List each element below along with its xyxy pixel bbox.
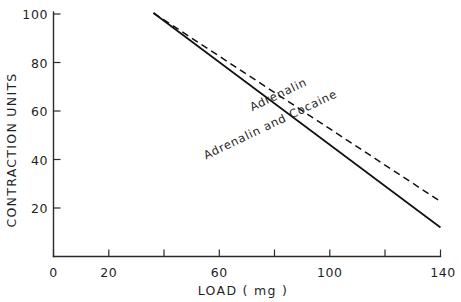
y-tick-label-100: 100 [22, 7, 48, 22]
y-axis-title: CONTRACTION UNITS [4, 72, 19, 227]
x-tick-label-60: 60 [211, 265, 228, 280]
y-tick-label-80: 80 [31, 56, 48, 71]
x-tick-label-0: 0 [49, 265, 58, 280]
y-tick-label-60: 60 [31, 104, 48, 119]
x-axis-title: LOAD ( mg ) [198, 283, 288, 298]
series-line-adrenalin-and-cocaine [154, 13, 441, 228]
x-tick-label-20: 20 [100, 265, 117, 280]
x-tick-label-140: 140 [430, 265, 456, 280]
y-tick-label-40: 40 [31, 153, 48, 168]
y-tick-label-20: 20 [31, 201, 48, 216]
chart-figure: 100 80 60 40 20 0 20 60 100 140 LOAD ( m… [0, 0, 461, 302]
x-tick-label-100: 100 [317, 265, 343, 280]
line-chart-plot: 100 80 60 40 20 0 20 60 100 140 LOAD ( m… [0, 0, 461, 302]
